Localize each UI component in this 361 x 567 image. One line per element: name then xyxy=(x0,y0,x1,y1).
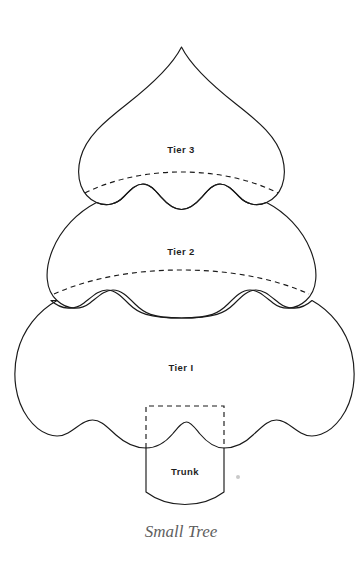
tier-3-label: Tier 3 xyxy=(167,144,195,155)
tier-3-seam-line xyxy=(85,172,278,193)
tier-1-label: Tier I xyxy=(169,362,194,373)
tier-2-seam-line xyxy=(54,270,309,294)
tree-pattern-drawing: Tier 3 Tier 2 Tier I Trunk Small Tree xyxy=(0,0,361,567)
trunk-label: Trunk xyxy=(171,466,199,477)
piece-trunk: Trunk xyxy=(146,448,224,505)
trunk-placement-guide xyxy=(146,406,224,448)
piece-tier-2: Tier 2 xyxy=(47,184,316,318)
pattern-caption: Small Tree xyxy=(145,522,218,541)
pattern-stage: Tier 3 Tier 2 Tier I Trunk Small Tree xyxy=(0,0,361,567)
trunk-guide-rect xyxy=(146,406,224,448)
piece-tier-1: Tier I xyxy=(15,290,354,448)
piece-tier-3: Tier 3 xyxy=(79,47,285,210)
scan-speck-artifact xyxy=(236,475,240,479)
tier-2-label: Tier 2 xyxy=(167,246,195,257)
tier-3-outline xyxy=(79,47,285,210)
